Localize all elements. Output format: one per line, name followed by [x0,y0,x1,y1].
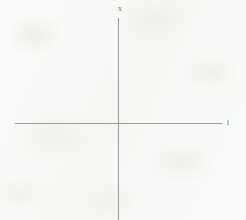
vertical-axis-label: x [115,4,125,14]
paper-texture-overlay [0,0,246,220]
coordinate-axes-figure: x t [0,0,246,220]
vertical-axis-line [118,18,119,220]
horizontal-axis-label: t [227,118,237,128]
